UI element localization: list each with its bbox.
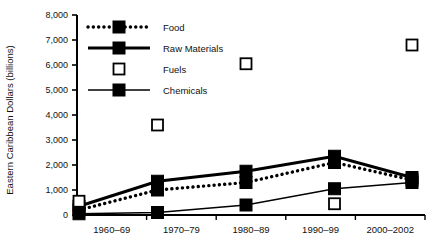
data-point-marker	[241, 58, 252, 69]
x-axis-category-labels: 1960–691970–791980–891990–992000–2002	[93, 224, 414, 235]
legend-marker-sample	[113, 84, 125, 96]
chart-figure: Eastern Caribbean Dollars (billions) 01,…	[0, 0, 431, 248]
x-category-label: 2000–2002	[366, 224, 414, 235]
y-tick-label: 1,000	[45, 185, 68, 195]
y-tick-label: 6,000	[45, 60, 68, 70]
y-tick-label: 0	[63, 210, 68, 220]
y-tick-label: 7,000	[45, 35, 68, 45]
legend-label: Food	[163, 22, 185, 33]
y-tick-label: 3,000	[45, 135, 68, 145]
x-category-label: 1970–79	[163, 224, 200, 235]
data-point-marker	[152, 207, 164, 219]
x-category-label: 1980–89	[233, 224, 270, 235]
data-point-marker	[329, 150, 341, 162]
data-point-marker	[152, 120, 163, 131]
y-tick-label: 4,000	[45, 110, 68, 120]
legend-item-fuels[interactable]: Fuels	[114, 64, 187, 75]
legend-marker-sample	[113, 42, 125, 54]
y-tick-label: 5,000	[45, 85, 68, 95]
x-category-label: 1990–99	[302, 224, 339, 235]
legend-item-raw-materials[interactable]: Raw Materials	[88, 42, 223, 54]
data-point-marker	[329, 183, 341, 195]
y-tick-label: 8,000	[45, 10, 68, 20]
x-category-label: 1960–69	[93, 224, 130, 235]
legend-label: Raw Materials	[163, 43, 223, 54]
data-point-marker	[240, 165, 252, 177]
legend-label: Fuels	[163, 64, 186, 75]
y-axis-ticks: 01,0002,0003,0004,0005,0006,0007,0008,00…	[45, 10, 77, 220]
data-point-marker	[240, 177, 252, 189]
data-point-marker	[152, 175, 164, 187]
data-point-marker	[74, 196, 85, 207]
data-point-marker	[329, 198, 340, 209]
legend-item-food[interactable]: Food	[88, 21, 185, 33]
data-point-marker	[406, 177, 418, 189]
legend-marker-sample	[114, 64, 125, 75]
legend-item-chemicals[interactable]: Chemicals	[88, 84, 208, 96]
line-chart: Eastern Caribbean Dollars (billions) 01,…	[0, 0, 431, 248]
data-point-marker	[407, 40, 418, 51]
y-axis-label: Eastern Caribbean Dollars (billions)	[4, 45, 15, 194]
y-tick-label: 2,000	[45, 160, 68, 170]
chart-legend: FoodRaw MaterialsFuelsChemicals	[88, 21, 223, 96]
data-point-marker	[73, 208, 85, 220]
legend-marker-sample	[113, 21, 125, 33]
legend-label: Chemicals	[163, 85, 208, 96]
data-point-marker	[240, 199, 252, 211]
